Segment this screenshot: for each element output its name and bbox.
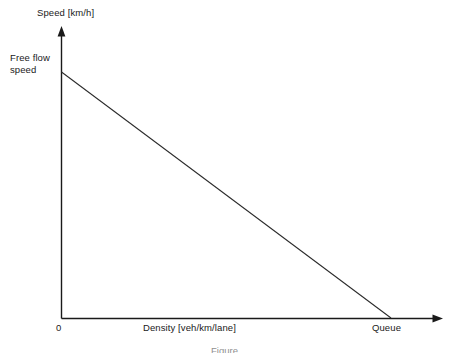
queue-tick-label: Queue xyxy=(372,322,401,334)
figure-container: Speed [km/h] Free flowspeed 0 Density [v… xyxy=(0,0,449,353)
free-flow-speed-line2: speed xyxy=(10,64,36,75)
free-flow-speed-annotation: Free flowspeed xyxy=(10,52,50,76)
speed-density-chart xyxy=(0,0,449,353)
x-axis-label: Density [veh/km/lane] xyxy=(143,322,236,334)
figure-caption: Figure xyxy=(0,345,449,353)
chart-background xyxy=(0,0,449,353)
origin-tick-label: 0 xyxy=(56,322,61,334)
y-axis-label: Speed [km/h] xyxy=(37,7,94,19)
free-flow-speed-line1: Free flow xyxy=(10,52,50,63)
